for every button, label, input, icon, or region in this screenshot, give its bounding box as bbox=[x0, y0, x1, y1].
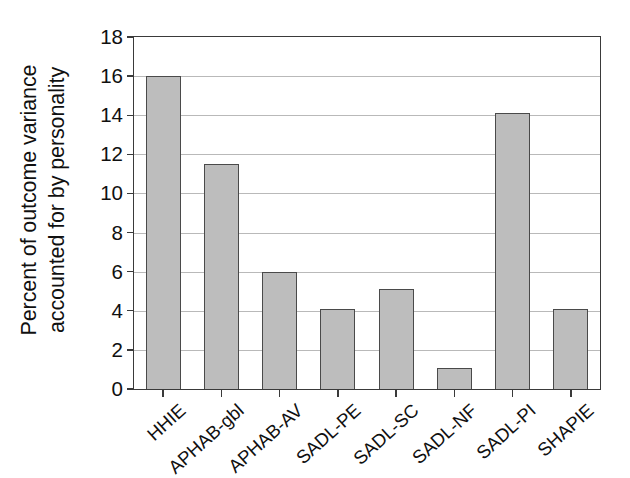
bar bbox=[262, 272, 297, 389]
y-tick-mark bbox=[127, 154, 134, 155]
y-axis-title-line-1: Percent of outcome variance bbox=[16, 0, 44, 400]
x-tick-mark bbox=[221, 389, 222, 397]
y-tick-mark bbox=[127, 349, 134, 350]
x-tick-label: SHAPIE bbox=[534, 401, 597, 460]
x-tick-label-wrap: SHAPIE bbox=[534, 401, 597, 460]
y-tick-label: 4 bbox=[112, 301, 123, 322]
bar bbox=[146, 76, 181, 389]
y-tick-mark bbox=[127, 36, 134, 37]
y-tick-label: 6 bbox=[112, 261, 123, 282]
x-tick-mark bbox=[395, 389, 396, 397]
y-tick-label: 16 bbox=[100, 66, 123, 87]
y-tick-label: 14 bbox=[100, 105, 123, 126]
x-tick-label-wrap: HHIE bbox=[144, 401, 189, 444]
y-tick-mark bbox=[127, 271, 134, 272]
x-tick-mark bbox=[279, 389, 280, 397]
plot-area: 024681012141618 HHIEAPHAB-gblAPHAB-AVSAD… bbox=[133, 36, 601, 390]
y-tick-label: 2 bbox=[112, 340, 123, 361]
y-tick-label: 0 bbox=[112, 379, 123, 400]
y-tick-label: 12 bbox=[100, 144, 123, 165]
y-tick-mark bbox=[127, 75, 134, 76]
x-tick-label: SADL-PI bbox=[473, 401, 539, 463]
bar-series bbox=[134, 37, 600, 389]
y-tick-mark bbox=[127, 115, 134, 116]
bar bbox=[437, 368, 472, 390]
x-tick-label-wrap: SADL-PI bbox=[473, 401, 539, 463]
x-tick-mark bbox=[454, 389, 455, 397]
y-tick-mark bbox=[127, 232, 134, 233]
x-tick-mark bbox=[570, 389, 571, 397]
y-tick-mark bbox=[127, 310, 134, 311]
bar bbox=[553, 309, 588, 389]
x-tick-label: HHIE bbox=[144, 401, 189, 444]
bar bbox=[495, 113, 530, 389]
x-tick-mark bbox=[512, 389, 513, 397]
y-tick-label: 10 bbox=[100, 183, 123, 204]
y-axis-title: Percent of outcome variance accounted fo… bbox=[0, 0, 88, 400]
y-tick-mark bbox=[127, 388, 134, 389]
x-tick-mark bbox=[162, 389, 163, 397]
x-tick-label-wrap: SADL-NF bbox=[410, 401, 481, 468]
x-tick-label: SADL-NF bbox=[410, 401, 481, 468]
y-axis-title-line-2: accounted for by personality bbox=[44, 0, 72, 400]
y-tick-label: 18 bbox=[100, 27, 123, 48]
y-tick-mark bbox=[127, 193, 134, 194]
bar bbox=[204, 164, 239, 389]
y-tick-label: 8 bbox=[112, 222, 123, 243]
x-tick-mark bbox=[337, 389, 338, 397]
bar bbox=[320, 309, 355, 389]
bar bbox=[379, 289, 414, 389]
